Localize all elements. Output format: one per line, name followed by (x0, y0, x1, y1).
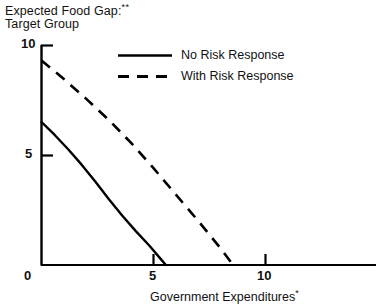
x-axis-footnote-marker: * (295, 288, 299, 298)
x-axis-title-text: Government Expenditures (150, 290, 295, 304)
x-axis-tick-label-10: 10 (257, 268, 271, 283)
y-axis-tick-label-10: 10 (21, 36, 35, 51)
x-axis-tick-label-5: 5 (149, 268, 156, 283)
legend-label-no-risk-response: No Risk Response (181, 48, 285, 62)
series-line-no-risk-response (42, 122, 166, 265)
axis-origin-label-0: 0 (24, 268, 31, 283)
y-axis-tick-label-5: 5 (25, 146, 32, 161)
legend-label-with-risk-response: With Risk Response (181, 69, 294, 83)
plot-area (0, 0, 384, 307)
data-series-group (42, 60, 234, 265)
legend-swatches (118, 56, 172, 77)
x-axis-title: Government Expenditures* (150, 288, 299, 304)
chart-figure: Expected Food Gap:** Target Group No Ris… (0, 0, 384, 307)
